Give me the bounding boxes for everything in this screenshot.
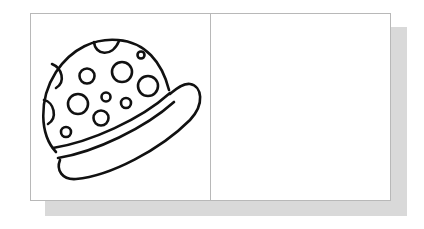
right-panel bbox=[211, 14, 390, 200]
two-panel-frame bbox=[30, 13, 391, 201]
spotted-hat-icon bbox=[31, 14, 210, 200]
left-panel bbox=[31, 14, 211, 200]
